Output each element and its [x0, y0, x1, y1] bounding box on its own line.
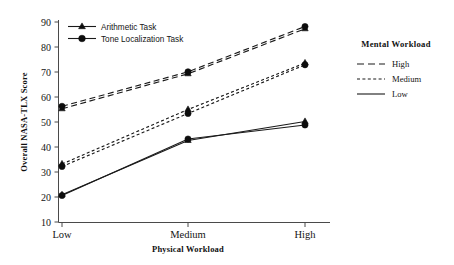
series-tone-low: [59, 122, 308, 199]
marker-circle-tone-high-low: [59, 103, 65, 109]
series-tone-high: [59, 23, 308, 109]
y-tick-label-90: 90: [41, 17, 51, 28]
series-line-arithmetic-medium: [62, 63, 305, 164]
circle-icon: [79, 35, 86, 42]
marker-circle-tone-med-low: [59, 163, 65, 169]
y-tick-label-20: 20: [41, 192, 51, 203]
workload-legend-title: Mental Workload: [361, 39, 431, 49]
marker-circle-tone-low-high: [302, 122, 308, 128]
workload-legend-label-low: Low: [392, 89, 409, 99]
y-tick-label-50: 50: [41, 117, 51, 128]
series-line-tone-high: [62, 27, 305, 107]
series-line-arithmetic-high: [62, 29, 305, 109]
marker-circle-tone-low-low: [59, 192, 65, 198]
triangle-icon: [79, 23, 86, 29]
y-tick-label-60: 60: [41, 92, 51, 103]
task-legend-label-tone: Tone Localization Task: [101, 35, 184, 44]
y-axis: 90 80 70 60 50 40 30 20 10 Overall NASA-…: [19, 17, 59, 228]
marker-circle-tone-high-high: [302, 23, 308, 29]
y-tick-label-70: 70: [41, 67, 51, 78]
series-line-tone-low: [62, 125, 305, 196]
series-arithmetic-low: [59, 118, 308, 197]
marker-circle-tone-med-medium: [185, 110, 191, 116]
series-line-tone-medium: [62, 65, 305, 167]
marker-circle-tone-high-medium: [185, 69, 191, 75]
series-arithmetic-high: [59, 25, 308, 111]
x-tick-label-medium: Medium: [170, 229, 206, 240]
marker-circle-tone-med-high: [302, 62, 308, 68]
y-tick-label-30: 30: [41, 167, 51, 178]
x-axis: Low Medium High Physical Workload: [52, 223, 330, 255]
chart-svg: 90 80 70 60 50 40 30 20 10 Overall NASA-…: [0, 0, 454, 265]
y-axis-title: Overall NASA-TLX Score: [19, 72, 29, 172]
series-line-arithmetic-low: [62, 122, 305, 195]
workload-legend-label-medium: Medium: [392, 74, 421, 84]
chart-figure: 90 80 70 60 50 40 30 20 10 Overall NASA-…: [0, 0, 454, 265]
x-tick-label-low: Low: [52, 229, 72, 240]
x-tick-label-high: High: [295, 229, 317, 240]
y-tick-label-10: 10: [41, 217, 51, 228]
y-tick-label-40: 40: [41, 142, 51, 153]
marker-circle-tone-low-medium: [185, 136, 191, 142]
series-tone-medium: [59, 62, 308, 170]
workload-legend-label-high: High: [392, 59, 410, 69]
task-legend: Arithmetic Task Tone Localization Task: [68, 23, 184, 44]
task-legend-label-arithmetic: Arithmetic Task: [101, 23, 157, 32]
x-axis-title: Physical Workload: [152, 244, 224, 254]
workload-legend: Mental Workload High Medium Low: [357, 39, 431, 99]
y-tick-label-80: 80: [41, 42, 51, 53]
